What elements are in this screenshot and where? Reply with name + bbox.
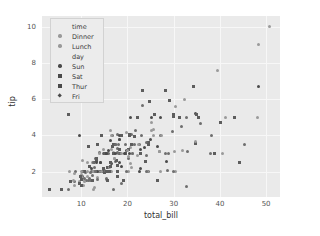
legend-group-title: day [51,52,103,62]
data-point [164,89,167,92]
data-point [129,116,132,119]
data-point [172,113,175,116]
gridline-vertical [220,16,221,197]
legend-item[interactable]: Dinner [51,32,103,42]
legend-item-label: Thur [72,83,87,91]
data-point [118,148,121,151]
data-point [95,157,98,160]
data-point [243,143,246,146]
data-point [185,185,188,188]
data-point [83,180,86,183]
data-point [80,184,83,187]
legend-item-label: Sat [72,73,83,81]
data-point [91,179,94,182]
data-point [60,188,63,191]
x-tick-label: 10 [77,200,86,208]
x-axis-label: total_bill [42,211,280,220]
data-point [183,98,186,101]
data-point [90,167,93,170]
data-point [116,170,119,173]
data-point [109,139,112,142]
data-point [118,138,121,141]
data-point [133,143,136,146]
data-point [150,129,153,132]
data-point [120,165,123,168]
legend-item-label: Dinner [72,33,94,41]
x-tick-label: 50 [262,200,271,208]
legend-item-label: Fri [72,93,80,101]
data-point [150,116,153,119]
data-point [109,161,112,164]
data-point [145,154,148,157]
data-point [181,149,184,152]
data-point [134,129,137,132]
legend-item[interactable]: Fri [51,92,103,102]
data-point [102,148,105,151]
data-point [219,121,222,124]
data-point [99,161,102,164]
data-point [120,182,123,185]
data-point [159,170,162,173]
data-point [257,43,260,46]
legend-title-label: day [72,53,84,61]
legend-item-label: Sun [72,63,84,71]
data-point [178,116,181,119]
circle-marker-icon [58,64,61,67]
diamond-marker-icon [58,94,63,99]
data-point [94,170,97,173]
data-point [69,180,72,183]
data-point [87,145,90,148]
data-point [233,116,236,119]
legend-item[interactable]: Lunch [51,42,103,52]
x-tick-label: 20 [123,200,132,208]
data-point [156,145,159,148]
data-point [118,161,121,164]
data-point [174,105,177,108]
data-point [224,116,227,119]
data-point [216,69,219,72]
legend-item[interactable]: Sat [51,72,103,82]
legend-item[interactable]: Sun [51,62,103,72]
data-point [144,160,147,163]
data-point [68,170,71,173]
data-point [95,161,98,164]
data-point [79,175,82,178]
data-point [96,143,99,146]
data-point [96,178,99,181]
square-marker-icon [58,84,61,87]
data-point [173,150,176,153]
data-point [194,140,197,143]
data-point [117,143,120,146]
data-point [136,154,139,157]
data-point [81,159,84,162]
legend-item[interactable]: Thur [51,82,103,92]
data-point [165,160,168,163]
data-point [148,100,151,103]
data-point [143,146,146,149]
data-point [164,152,167,155]
data-point [150,121,153,124]
data-point [136,116,139,119]
data-point [152,134,155,137]
data-point [108,170,111,173]
x-tick-label: 40 [215,200,224,208]
chart-legend[interactable]: timeDinnerLunchdaySunSatThurFri [50,18,104,103]
data-point [67,188,70,191]
data-point [130,166,133,169]
data-point [257,85,260,88]
data-point [73,184,76,187]
data-point [138,170,141,173]
data-point [268,25,271,28]
data-point [139,152,142,155]
data-point [221,152,224,155]
data-point [180,125,183,128]
legend-group-title: time [51,22,103,32]
data-point [105,170,108,173]
data-point [91,174,94,177]
data-point [199,122,202,125]
legend-title-label: time [72,23,87,31]
data-point [73,172,76,175]
data-point [93,166,96,169]
data-point [139,148,142,151]
data-point [166,169,169,172]
